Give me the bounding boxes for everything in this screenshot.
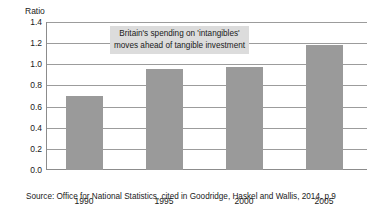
y-tick-label-0.0: 0.0 bbox=[16, 165, 42, 175]
y-tick-label-1.4: 1.4 bbox=[16, 17, 42, 27]
annotation-line-1: Britain's spending on 'intangibles' bbox=[113, 28, 246, 40]
annotation-callout: Britain's spending on 'intangibles' move… bbox=[110, 26, 249, 54]
bar-2005 bbox=[306, 45, 343, 170]
y-tick-label-1.2: 1.2 bbox=[16, 38, 42, 48]
annotation-line-2: moves ahead of tangible investment bbox=[113, 40, 246, 52]
y-tick-label-0.4: 0.4 bbox=[16, 123, 42, 133]
gridline-1.4 bbox=[47, 22, 367, 23]
bar-1990 bbox=[66, 96, 103, 170]
y-tick-label-1.0: 1.0 bbox=[16, 59, 42, 69]
y-axis-title: Ratio bbox=[25, 6, 45, 16]
y-tick-label-0.2: 0.2 bbox=[16, 144, 42, 154]
bar-1995 bbox=[146, 69, 183, 170]
bar-2000 bbox=[226, 67, 263, 170]
y-tick-label-0.8: 0.8 bbox=[16, 80, 42, 90]
bar-chart-figure: Ratio 1990 1995 2000 2005 1.4 1.2 1.0 0.… bbox=[0, 0, 382, 209]
y-tick-label-0.6: 0.6 bbox=[16, 102, 42, 112]
source-note: Source: Office for National Statistics, … bbox=[26, 192, 336, 201]
